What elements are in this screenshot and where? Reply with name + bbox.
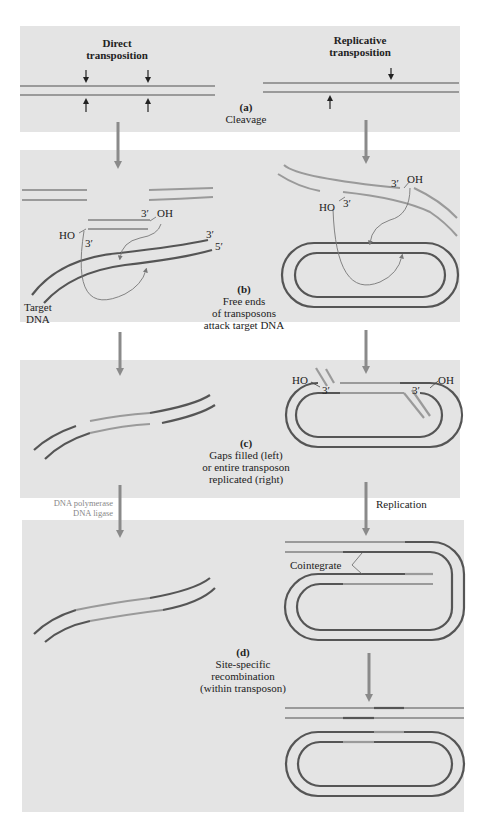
replication-label: Replication [376,498,427,510]
step-d-line3: (within transposon) [200,682,286,694]
label-ho-c: HO [292,374,308,386]
label-3prime-b-left-top: 3′ [141,207,149,219]
panel-c-left-dna [34,395,215,459]
panel-b-plasmid [282,243,458,307]
step-a-text: Cleavage [226,113,267,125]
cointegrate-label: Cointegrate [290,559,341,571]
step-d-tag: (d) [200,646,286,658]
target-dna-label: Target DNA [24,301,52,325]
right-column-title: Replicative transposition [329,34,391,58]
step-d-caption: (d) Site-specific recombination (within … [200,646,286,694]
step-c-line3: replicated (right) [202,473,289,485]
label-3prime-target: 3′ [206,228,214,240]
panel-d-left-dna [34,578,215,642]
label-5prime-target: 5′ [215,240,223,252]
panel-b-left-transposon [22,188,213,229]
left-title-line1: Direct [86,37,148,49]
right-title-line2: transposition [329,46,391,58]
step-b-line3: attack target DNA [204,319,284,331]
cointegrate-structure [285,542,464,640]
step-d-line1: Site-specific [200,658,286,670]
step-c-line2: or entire transposon [202,461,289,473]
left-title-line2: transposition [86,49,148,61]
label-ho-b-left: HO [59,229,75,241]
enzymes-label: DNA polymerase DNA ligase [30,498,113,518]
step-c-line1: Gaps filled (left) [202,449,289,461]
label-oh-c: OH [438,374,454,386]
right-title-line1: Replicative [329,34,391,46]
cointegrate-pointer [352,553,362,574]
step-b-line1: Free ends [204,295,284,307]
panel-b-right-transposon [278,165,457,236]
step-b-line2: of transposons [204,307,284,319]
label-ho-b-right: HO [319,201,335,213]
target-dna-line2: DNA [24,313,52,325]
step-d-line2: recombination [200,670,286,682]
step-b-tag: (b) [204,283,284,295]
panel-b-target-dna [32,240,212,303]
final-products [285,708,464,796]
step-a-caption: (a) Cleavage [226,101,267,125]
label-3prime-b-right-bottom: 3′ [343,197,351,209]
left-column-title: Direct transposition [86,37,148,61]
step-c-tag: (c) [202,437,289,449]
panel-c-plasmid [286,368,462,447]
enzyme-dna-ligase: DNA ligase [30,508,113,518]
label-3prime-b-right-top: 3′ [391,177,399,189]
label-3prime-c-right: 3′ [412,384,420,396]
enzyme-dna-polymerase: DNA polymerase [30,498,113,508]
step-a-tag: (a) [226,101,267,113]
target-dna-line1: Target [24,301,52,313]
step-b-caption: (b) Free ends of transposons attack targ… [204,283,284,331]
step-c-caption: (c) Gaps filled (left) or entire transpo… [202,437,289,485]
label-oh-b-left: OH [157,207,173,219]
panel-a-dna [20,83,459,95]
label-oh-b-right: OH [407,173,423,185]
label-3prime-b-left-bottom: 3′ [85,237,93,249]
label-3prime-c-left: 3′ [322,384,330,396]
